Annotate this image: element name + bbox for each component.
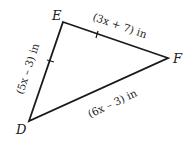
vertex-label-d: D: [15, 122, 27, 137]
side-label-de: (5x – 3) in: [13, 41, 41, 95]
vertex-label-e: E: [51, 8, 62, 23]
triangle-diagram: E F D (3x + 7) in (5x – 3) in (6x – 3) i…: [0, 0, 193, 141]
vertex-label-f: F: [172, 51, 183, 66]
side-label-ef: (3x + 7) in: [91, 11, 148, 41]
